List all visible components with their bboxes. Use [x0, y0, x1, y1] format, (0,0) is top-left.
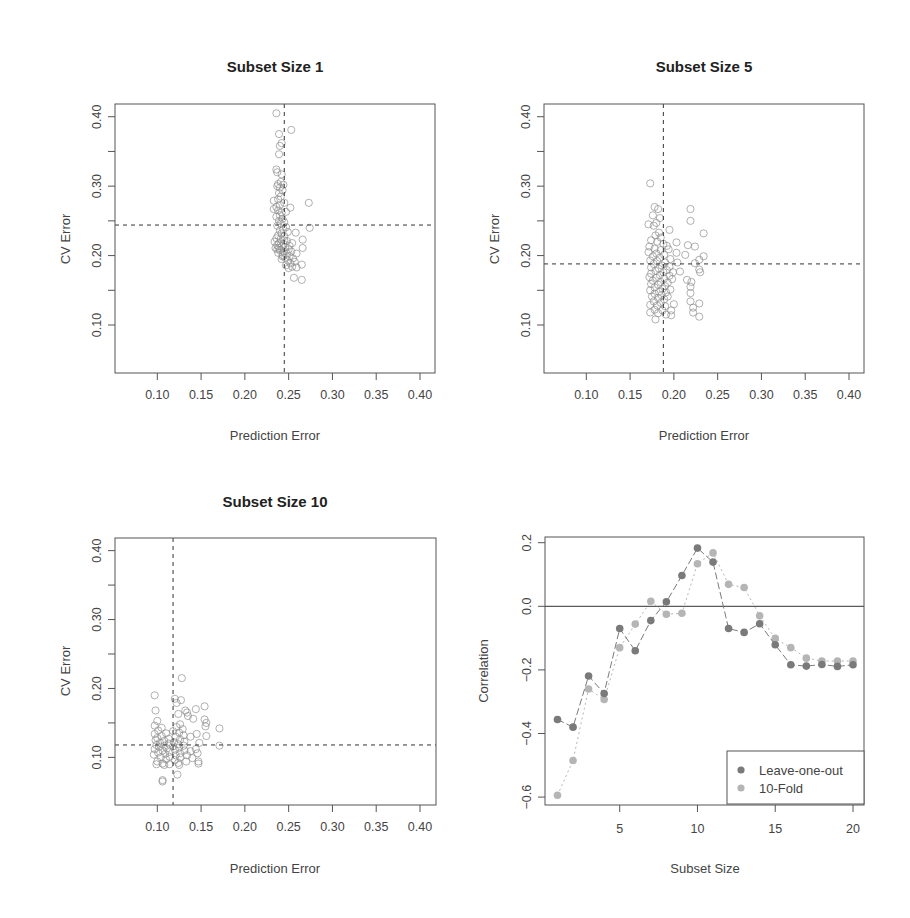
- panel-title: Subset Size 5: [656, 58, 753, 75]
- series-point: [756, 620, 764, 628]
- data-point: [275, 130, 282, 137]
- data-point: [152, 707, 159, 714]
- plot-frame: [115, 538, 436, 805]
- data-point: [299, 236, 306, 243]
- series-point: [787, 661, 795, 669]
- series-point: [803, 654, 811, 662]
- legend-marker-leave-one-out-icon: [737, 766, 744, 773]
- panel-correlation: Subset Size Correlation 5101520−0.6−0.4−…: [476, 534, 864, 876]
- y-tick-label: 0.30: [519, 174, 533, 198]
- x-tick-label: 0.40: [837, 388, 861, 402]
- series-point: [756, 612, 764, 620]
- series-point: [709, 558, 717, 566]
- series-point: [663, 598, 671, 606]
- y-tick-label: −0.4: [520, 721, 534, 746]
- y-tick-label: 0.10: [90, 313, 104, 337]
- legend-label: 10-Fold: [759, 781, 803, 796]
- series-point: [569, 757, 577, 765]
- x-tick-label: 5: [616, 822, 623, 836]
- plot-area: 0.100.150.200.250.300.350.400.100.200.30…: [90, 538, 436, 834]
- x-tick-label: 15: [768, 822, 782, 836]
- x-axis-label: Prediction Error: [659, 428, 750, 443]
- x-tick-label: 0.25: [276, 820, 300, 834]
- legend-marker-10-fold-icon: [737, 784, 744, 791]
- data-point: [201, 703, 208, 710]
- panel-subset-size-5: Subset Size 5 Prediction Error CV Error …: [487, 58, 864, 443]
- data-point: [652, 316, 659, 323]
- series-point: [740, 629, 748, 637]
- series-point: [554, 716, 562, 724]
- data-point: [656, 214, 663, 221]
- y-tick-label: −0.2: [520, 658, 534, 683]
- data-point: [178, 675, 185, 682]
- series-point: [647, 617, 655, 625]
- data-point: [298, 276, 305, 283]
- data-point: [187, 733, 194, 740]
- series-point: [787, 644, 795, 652]
- x-tick-label: 0.40: [408, 388, 432, 402]
- y-axis-label: CV Error: [58, 645, 73, 696]
- x-tick-label: 0.15: [618, 388, 642, 402]
- data-point: [292, 229, 299, 236]
- x-tick-label: 0.10: [145, 820, 169, 834]
- data-point: [645, 221, 652, 228]
- x-tick-label: 0.20: [233, 820, 257, 834]
- series-point: [616, 644, 624, 652]
- series-point: [725, 625, 733, 633]
- series-point: [647, 597, 655, 605]
- data-point: [273, 110, 280, 117]
- data-point: [216, 725, 223, 732]
- data-point: [216, 742, 223, 749]
- x-axis-label: Prediction Error: [230, 861, 321, 876]
- y-tick-label: −0.6: [520, 785, 534, 810]
- x-axis-label: Prediction Error: [230, 428, 321, 443]
- y-tick-label: 0.30: [90, 607, 104, 631]
- data-point: [151, 692, 158, 699]
- panel-subset-size-1: Subset Size 1 Prediction Error CV Error …: [58, 58, 435, 443]
- x-tick-label: 0.20: [662, 388, 686, 402]
- data-point: [682, 251, 689, 258]
- x-tick-label: 0.25: [276, 388, 300, 402]
- data-point: [299, 244, 306, 251]
- data-point: [696, 313, 703, 320]
- plot-area: 0.100.150.200.250.300.350.400.100.200.30…: [90, 104, 435, 402]
- x-tick-label: 0.10: [574, 388, 598, 402]
- data-point: [203, 732, 210, 739]
- data-point: [700, 230, 707, 237]
- plot-frame: [544, 104, 864, 373]
- legend: Leave-one-out 10-Fold: [727, 751, 864, 804]
- series-point: [631, 647, 639, 655]
- data-point: [676, 268, 683, 275]
- x-tick-label: 0.30: [320, 820, 344, 834]
- y-axis-label: CV Error: [487, 213, 502, 264]
- x-tick-label: 0.35: [364, 388, 388, 402]
- x-tick-label: 0.20: [233, 388, 257, 402]
- series-point: [849, 661, 857, 669]
- series-point: [585, 672, 593, 680]
- figure: Subset Size 1 Prediction Error CV Error …: [0, 0, 910, 918]
- data-point: [684, 242, 691, 249]
- data-point: [275, 151, 282, 158]
- data-point: [175, 710, 182, 717]
- x-tick-label: 0.15: [189, 820, 213, 834]
- y-tick-label: 0.2: [520, 534, 534, 551]
- y-tick-label: 0.40: [90, 105, 104, 129]
- series-point: [694, 544, 702, 552]
- x-tick-label: 0.35: [364, 820, 388, 834]
- y-tick-label: 0.0: [520, 598, 534, 615]
- y-tick-label: 0.20: [90, 676, 104, 700]
- legend-label: Leave-one-out: [759, 763, 843, 778]
- data-point: [683, 276, 690, 283]
- data-point: [668, 312, 675, 319]
- x-tick-label: 0.25: [705, 388, 729, 402]
- series-point: [694, 560, 702, 568]
- data-point: [673, 249, 680, 256]
- series-point: [616, 625, 624, 633]
- data-point: [687, 205, 694, 212]
- data-point: [288, 126, 295, 133]
- series-point: [771, 641, 779, 649]
- data-point: [688, 278, 695, 285]
- x-tick-label: 0.10: [145, 388, 169, 402]
- x-axis-label: Subset Size: [670, 861, 739, 876]
- series-point: [818, 661, 826, 669]
